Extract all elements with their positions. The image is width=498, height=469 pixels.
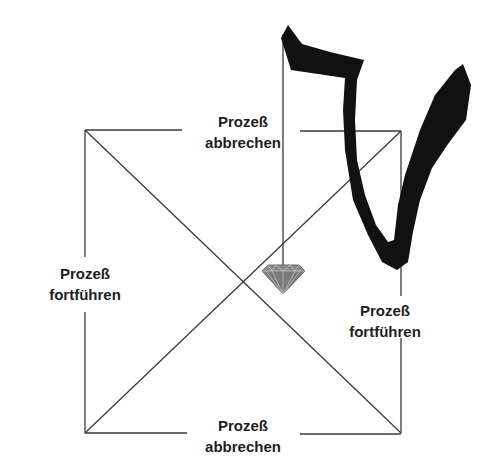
label-bottom: Prozeß abbrechen (205, 415, 281, 457)
label-right-line1: Prozeß (349, 300, 421, 321)
label-left-line1: Prozeß (49, 263, 121, 284)
label-right: Prozeß fortführen (349, 300, 421, 342)
label-top-line2: abbrechen (205, 132, 281, 153)
diagram-svg (0, 0, 498, 469)
label-top: Prozeß abbrechen (205, 111, 281, 153)
label-bottom-line2: abbrechen (205, 436, 281, 457)
label-top-line1: Prozeß (205, 111, 281, 132)
label-right-line2: fortführen (349, 321, 421, 342)
brush-stroke-icon (281, 25, 471, 270)
diagram-canvas: Prozeß abbrechen Prozeß fortführen Proze… (0, 0, 498, 469)
diamond-icon (262, 265, 305, 294)
label-bottom-line1: Prozeß (205, 415, 281, 436)
label-left-line2: fortführen (49, 284, 121, 305)
label-left: Prozeß fortführen (49, 263, 121, 305)
